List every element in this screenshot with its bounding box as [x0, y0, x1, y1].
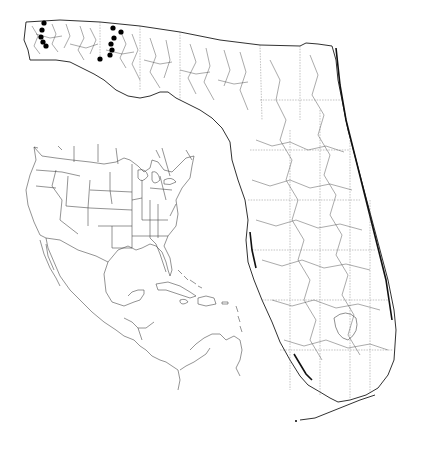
occurrence-dot	[111, 35, 116, 40]
occurrence-dot	[118, 29, 123, 34]
occurrence-dot	[38, 34, 43, 39]
occurrence-dot	[43, 43, 48, 48]
central-panhandle-cluster	[97, 25, 123, 61]
occurrence-dot	[110, 25, 115, 30]
western-panhandle-cluster	[38, 20, 48, 48]
north-america-inset	[26, 144, 242, 390]
florida-distribution-map	[0, 0, 436, 449]
occurrence-dot	[39, 27, 44, 32]
occurrence-dot	[108, 41, 113, 46]
occurrence-dot	[97, 56, 102, 61]
occurrence-dot	[41, 20, 46, 25]
florida-outline	[24, 20, 396, 422]
occurrence-dot	[107, 52, 112, 57]
occurrence-dot	[109, 47, 114, 52]
